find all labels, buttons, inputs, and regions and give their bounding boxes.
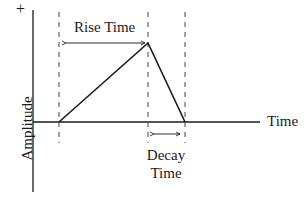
diagram-canvas: + Rise Time Time Decay Time Amplitude [0,0,308,200]
pulse-envelope-line [59,43,185,122]
rise-time-label: Rise Time [74,19,135,36]
x-axis-label: Time [267,113,298,130]
y-axis-label: Amplitude [19,94,36,164]
decay-time-label: Decay Time [141,146,191,182]
decay-label-line1: Decay [141,146,191,164]
decay-label-line2: Time [141,164,191,182]
y-axis-plus-label: + [16,0,25,18]
